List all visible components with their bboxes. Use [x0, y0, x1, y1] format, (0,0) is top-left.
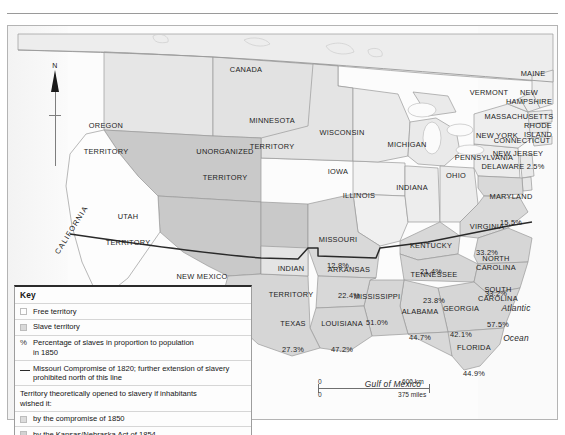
header-divider — [7, 13, 558, 14]
map-legend: Key Free territory Slave territory % Per… — [14, 285, 252, 435]
slave-territory-swatch — [20, 322, 33, 332]
comp-line2: prohibited north of this line — [33, 373, 122, 382]
percent-symbol-icon: % — [20, 338, 33, 348]
free-territory-swatch — [20, 307, 33, 317]
legend-item-slave-territory: Slave territory — [15, 319, 251, 335]
legend-slave-territory-label: Slave territory — [33, 322, 246, 332]
scale-miles-end: 375 miles — [398, 391, 426, 398]
comp-line1: Missouri Compromise of 1820; further ext… — [33, 364, 229, 373]
legend-percentage-text: Percentage of slaves in proportion to po… — [33, 338, 246, 357]
scale-km-start: 0 — [318, 378, 322, 385]
legend-item-kansas-nebraska: by the Kansas/Nebraska Act of 1854 — [15, 426, 251, 435]
legend-item-compromise-1850: by the compromise of 1850 — [15, 411, 251, 427]
legend-free-territory-label: Free territory — [33, 307, 246, 317]
compromise-line-icon — [20, 364, 33, 374]
north-arrow-tick — [49, 115, 61, 116]
legend-kansas-nebraska-label: by the Kansas/Nebraska Act of 1854 — [33, 430, 246, 435]
legend-compromise-1850-label: by the compromise of 1850 — [33, 414, 246, 424]
legend-item-free-territory: Free territory — [15, 303, 251, 319]
map-page: N Pacific Ocean Atlantic Ocean Gulf of M… — [0, 0, 565, 435]
legend-opened-text: Territory theoretically opened to slaver… — [20, 389, 246, 408]
opened-line2: wished it: — [20, 399, 52, 408]
north-arrow-label: N — [48, 62, 62, 69]
north-arrow-head — [51, 70, 59, 92]
kansas-nebraska-swatch — [20, 430, 33, 435]
legend-item-missouri-compromise: Missouri Compromise of 1820; further ext… — [15, 360, 251, 385]
scale-bar-line — [318, 388, 430, 389]
legend-item-opened-to-slavery: Territory theoretically opened to slaver… — [15, 385, 251, 410]
scale-miles-start: 0 — [318, 391, 322, 398]
opened-line1: Territory theoretically opened to slaver… — [20, 389, 197, 398]
pct-line2: in 1850 — [33, 348, 58, 357]
legend-compromise-text: Missouri Compromise of 1820; further ext… — [33, 364, 246, 383]
pct-line1: Percentage of slaves in proportion to po… — [33, 338, 194, 347]
scale-tick-end — [429, 384, 430, 393]
compromise-1850-swatch — [20, 414, 33, 424]
scale-km-end: 600 km — [402, 378, 424, 385]
north-arrow-stem — [55, 92, 56, 166]
north-arrow: N — [48, 62, 62, 166]
legend-title: Key — [15, 287, 251, 303]
legend-item-percentage: % Percentage of slaves in proportion to … — [15, 335, 251, 360]
